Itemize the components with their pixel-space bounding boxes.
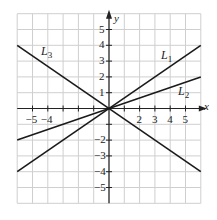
y-tick-label: 1 [99,87,105,98]
L1-sub: 1 [168,54,173,64]
L3-main: L [41,44,48,58]
coordinate-plane [0,0,217,220]
y-tick-label: −5 [94,182,106,193]
x-axis-label: x [204,101,209,112]
L3-sub: 3 [48,50,53,60]
x-tick-label: 5 [183,114,189,125]
line-label-L3: L3 [41,45,52,60]
x-tick-label: −4 [41,114,53,125]
y-tick-label: 3 [99,55,105,66]
y-tick-label: −3 [94,150,106,161]
x-tick-label: 4 [167,114,173,125]
y-tick-label: −2 [94,134,106,145]
line-label-L1: L1 [161,49,172,64]
y-tick-label: 2 [99,71,105,82]
L1-main: L [161,48,168,62]
x-tick-label: 2 [137,114,143,125]
x-tick-label: −5 [26,114,38,125]
y-tick-label: 4 [99,39,105,50]
x-tick-label: 3 [152,114,158,125]
y-tick-label: −4 [94,166,106,177]
line-label-L2: L2 [178,85,189,100]
y-axis-label: y [114,13,119,24]
y-axis-arrow-icon [106,10,112,19]
L2-sub: 2 [185,90,190,100]
y-tick-label: 5 [99,24,105,35]
L2-main: L [178,84,185,98]
